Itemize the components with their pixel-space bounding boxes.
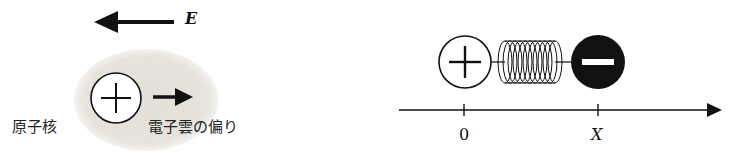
positive-charge-circle: [439, 36, 491, 88]
minus-icon: [582, 59, 614, 65]
spring-icon: [498, 41, 562, 83]
nucleus-circle: [91, 73, 141, 123]
axis-label-x: X: [591, 125, 602, 144]
axis-label-origin: 0: [459, 125, 469, 144]
x-axis: [399, 103, 722, 117]
cloud-shift-label: 電子雲の偏り: [148, 115, 238, 136]
negative-charge-circle: [571, 35, 625, 89]
diagram-canvas: [0, 0, 740, 153]
field-label: E: [185, 9, 197, 28]
electric-field-arrow: [94, 11, 174, 33]
nucleus-label: 原子核: [12, 115, 57, 136]
